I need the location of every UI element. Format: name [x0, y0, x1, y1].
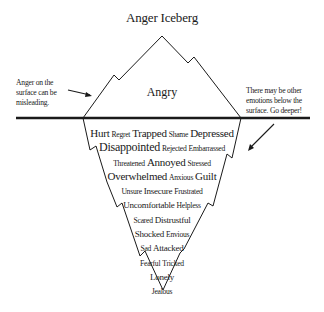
emotion-word: Helpless	[177, 201, 201, 210]
emotion-word: Tricked	[162, 259, 184, 268]
emotion-word: Threatened	[113, 159, 145, 168]
emotion-row: UnsureInsecureFrustrated	[70, 183, 254, 197]
note-right: There may be other emotions below the su…	[246, 86, 324, 116]
emotion-word: Rejected	[162, 144, 187, 153]
emotion-row: ThreatenedAnnoyedStressed	[70, 155, 254, 169]
emotion-word: Shocked	[135, 229, 164, 239]
emotion-word: Disappointed	[99, 140, 160, 154]
emotion-word: Insecure	[144, 186, 172, 196]
note-left: Anger on the surface can be misleading.	[16, 78, 78, 108]
emotion-row: FearfulTricked	[70, 255, 254, 269]
emotion-word: Regret	[111, 130, 130, 139]
emotion-row: Jealous	[70, 283, 254, 297]
diagram-title: Anger Iceberg	[0, 10, 324, 26]
note-right-line: surface. Go deeper!	[246, 106, 324, 116]
emotion-row: SadAttacked	[70, 240, 254, 254]
emotion-word: Depressed	[190, 127, 234, 139]
emotion-row: UncomfortableHelpless	[70, 197, 254, 211]
emotion-word: Distrustful	[155, 215, 191, 225]
emotion-word: Stressed	[187, 159, 210, 168]
emotion-word: Unsure	[121, 187, 141, 196]
emotion-word: Anxious	[169, 173, 193, 182]
emotion-word: Guilt	[195, 170, 216, 182]
emotion-word: Annoyed	[147, 156, 186, 168]
emotion-word: Embarrassed	[189, 144, 225, 153]
emotion-word: Shame	[169, 130, 188, 139]
anger-iceberg-diagram: Anger Iceberg Anger on the surface can b…	[0, 0, 324, 312]
left-arrow-head	[85, 92, 92, 97]
note-right-line: emotions below the	[246, 96, 324, 106]
emotion-word: Scared	[134, 216, 153, 225]
emotion-word: Attacked	[153, 243, 183, 253]
note-left-line: surface can be	[16, 88, 78, 98]
emotion-row: OverwhelmedAnxiousGuilt	[70, 169, 254, 183]
note-left-line: misleading.	[16, 98, 78, 108]
emotion-row: ScaredDistrustful	[70, 212, 254, 226]
note-right-line: There may be other	[246, 86, 324, 96]
emotion-word: Hurt	[90, 127, 109, 139]
emotion-word: Fearful	[140, 259, 160, 268]
emotion-row: HurtRegretTrappedShameDepressed	[70, 126, 254, 140]
emotion-row: DisappointedRejectedEmbarrassed	[70, 140, 254, 154]
emotion-word: Envious	[166, 230, 189, 239]
emotion-word: Uncomfortable	[123, 200, 174, 210]
emotion-word: Overwhelmed	[108, 170, 168, 182]
emotion-row: ShockedEnvious	[70, 226, 254, 240]
emotion-word: Jealous	[152, 287, 173, 296]
emotion-word: Frustrated	[174, 187, 202, 196]
emotion-word: Lonely	[150, 272, 174, 282]
emotion-row: Lonely	[70, 269, 254, 283]
note-left-line: Anger on the	[16, 78, 78, 88]
iceberg-tip-outline	[83, 36, 241, 118]
surface-emotion-label: Angry	[120, 85, 204, 100]
underwater-emotions: HurtRegretTrappedShameDepressedDisappoin…	[70, 126, 254, 298]
emotion-word: Sad	[140, 244, 151, 253]
emotion-word: Trapped	[132, 127, 167, 139]
